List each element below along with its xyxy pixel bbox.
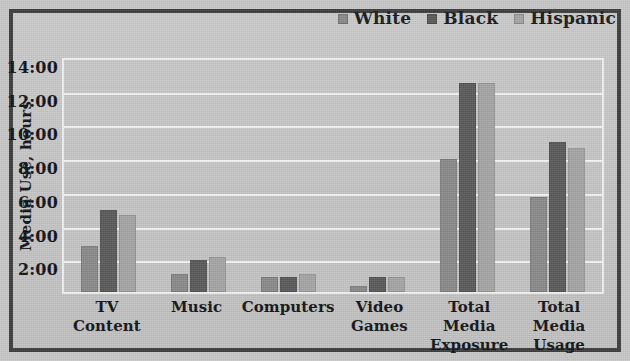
bar-group bbox=[64, 60, 154, 292]
bar-white[interactable] bbox=[171, 274, 188, 292]
legend-label: White bbox=[354, 10, 412, 27]
legend-swatch-icon bbox=[514, 14, 524, 24]
legend-item-white[interactable]: White bbox=[338, 10, 412, 27]
bar-hispanic[interactable] bbox=[299, 274, 316, 292]
bar-group bbox=[154, 60, 244, 292]
y-axis-tick-labels: 2:004:006:008:0010:0012:0014:00 bbox=[0, 0, 62, 361]
bar-black[interactable] bbox=[100, 210, 117, 292]
chart-legend: WhiteBlackHispanic bbox=[338, 10, 616, 27]
bar-black[interactable] bbox=[549, 142, 566, 292]
bar-group bbox=[423, 60, 513, 292]
x-axis-label: Total MediaExposure bbox=[424, 297, 514, 353]
x-axis-category-labels: TV ContentMusicComputersVideoGamesTotal … bbox=[62, 297, 604, 353]
x-axis-label-line1: Video bbox=[356, 298, 404, 316]
x-axis-label-line1: Music bbox=[171, 298, 222, 316]
x-axis-label-line1: Total bbox=[538, 298, 580, 316]
x-axis-label-line1: Total Media bbox=[443, 298, 496, 335]
x-axis-label-line2: Games bbox=[335, 317, 425, 336]
bar-group bbox=[333, 60, 423, 292]
bar-black[interactable] bbox=[190, 260, 207, 292]
chart-figure: WhiteBlackHispanic Media Use, hours 2:00… bbox=[0, 0, 630, 361]
bar-black[interactable] bbox=[459, 83, 476, 292]
bar-black[interactable] bbox=[280, 277, 297, 292]
x-axis-label-line2: Media Usage bbox=[514, 317, 604, 355]
legend-swatch-icon bbox=[338, 14, 348, 24]
legend-item-black[interactable]: Black bbox=[427, 10, 498, 27]
bar-hispanic[interactable] bbox=[209, 257, 226, 292]
y-tick-label: 6:00 bbox=[18, 192, 58, 211]
y-tick-label: 12:00 bbox=[7, 91, 58, 110]
x-axis-label: TV Content bbox=[62, 297, 152, 353]
bar-black[interactable] bbox=[369, 277, 386, 292]
y-tick-label: 10:00 bbox=[7, 125, 58, 144]
x-axis-label-line2: Exposure bbox=[424, 336, 514, 355]
x-axis-label-line1: Computers bbox=[242, 298, 335, 316]
y-tick-label: 8:00 bbox=[18, 159, 58, 178]
legend-swatch-icon bbox=[427, 14, 437, 24]
bar-hispanic[interactable] bbox=[568, 148, 585, 292]
bar-hispanic[interactable] bbox=[388, 277, 405, 292]
legend-label: Hispanic bbox=[530, 10, 616, 27]
bar-group bbox=[512, 60, 602, 292]
bar-white[interactable] bbox=[261, 277, 278, 292]
bar-hispanic[interactable] bbox=[119, 215, 136, 292]
bar-white[interactable] bbox=[530, 197, 547, 292]
bar-white[interactable] bbox=[350, 286, 367, 292]
y-tick-label: 2:00 bbox=[18, 260, 58, 279]
legend-item-hispanic[interactable]: Hispanic bbox=[514, 10, 616, 27]
plot-area bbox=[62, 58, 604, 294]
y-tick-label: 14:00 bbox=[7, 58, 58, 77]
x-axis-label-line1: TV Content bbox=[73, 298, 141, 335]
bar-hispanic[interactable] bbox=[478, 83, 495, 292]
x-axis-label: Music bbox=[152, 297, 242, 353]
y-tick-label: 4:00 bbox=[18, 226, 58, 245]
x-axis-label: TotalMedia Usage bbox=[514, 297, 604, 353]
bar-white[interactable] bbox=[81, 246, 98, 292]
bar-white[interactable] bbox=[440, 159, 457, 292]
x-axis-label: Computers bbox=[242, 297, 335, 353]
bars-layer bbox=[64, 60, 602, 292]
bar-group bbox=[243, 60, 333, 292]
legend-label: Black bbox=[443, 10, 498, 27]
x-axis-label: VideoGames bbox=[335, 297, 425, 353]
